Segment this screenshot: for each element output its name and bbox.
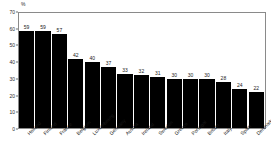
bar bbox=[68, 59, 83, 128]
bar-slot: 22 bbox=[249, 13, 264, 128]
bar bbox=[134, 75, 149, 128]
bar-slot: 28 bbox=[216, 13, 231, 128]
bar-value-label: 30 bbox=[167, 72, 182, 78]
bar-value-label: 59 bbox=[19, 24, 34, 30]
y-axis-tick-label: 20 bbox=[9, 93, 15, 99]
y-axis-tick-label: 30 bbox=[9, 76, 15, 82]
bar-slot: 42 bbox=[68, 13, 83, 128]
bar-slot: 30 bbox=[167, 13, 182, 128]
y-axis-tick-label: 10 bbox=[9, 109, 15, 115]
bar bbox=[35, 31, 50, 128]
bar-slot: 30 bbox=[183, 13, 198, 128]
bar-slot: 33 bbox=[117, 13, 132, 128]
bar-value-label: 31 bbox=[150, 70, 165, 76]
bar-value-label: 33 bbox=[117, 67, 132, 73]
bar bbox=[150, 77, 165, 128]
bar-slot: 30 bbox=[199, 13, 214, 128]
bar-slot: 24 bbox=[232, 13, 247, 128]
y-axis: 010203040506070 bbox=[0, 12, 18, 129]
bar-slot: 59 bbox=[35, 13, 50, 128]
bar-value-label: 37 bbox=[101, 60, 116, 66]
chart-page: % 010203040506070 5959574240373332313030… bbox=[0, 0, 271, 163]
bars-area: 595957424037333231303030282422 bbox=[19, 13, 265, 128]
bar-value-label: 57 bbox=[52, 27, 67, 33]
bar bbox=[216, 82, 231, 128]
bar-value-label: 30 bbox=[199, 72, 214, 78]
bar-slot: 32 bbox=[134, 13, 149, 128]
y-axis-tick-label: 40 bbox=[9, 59, 15, 65]
bar-slot: 31 bbox=[150, 13, 165, 128]
bar-value-label: 40 bbox=[85, 55, 100, 61]
bar-slot: 37 bbox=[101, 13, 116, 128]
bar-value-label: 32 bbox=[134, 68, 149, 74]
bar bbox=[249, 92, 264, 128]
bar-slot: 57 bbox=[52, 13, 67, 128]
bar-value-label: 42 bbox=[68, 52, 83, 58]
bar bbox=[85, 62, 100, 128]
bar bbox=[52, 34, 67, 128]
bar bbox=[232, 89, 247, 128]
bar-value-label: 59 bbox=[35, 24, 50, 30]
bar-slot: 59 bbox=[19, 13, 34, 128]
bar-slot: 40 bbox=[85, 13, 100, 128]
y-axis-tick-label: 50 bbox=[9, 42, 15, 48]
y-axis-tick-label: 70 bbox=[9, 9, 15, 15]
bar-value-label: 24 bbox=[232, 82, 247, 88]
bar-value-label: 22 bbox=[249, 85, 264, 91]
y-axis-tick-label: 60 bbox=[9, 26, 15, 32]
bar-value-label: 28 bbox=[216, 75, 231, 81]
bar bbox=[19, 31, 34, 128]
bar-value-label: 30 bbox=[183, 72, 198, 78]
x-axis-labels: HollandFinlandFranceBelgiumLuxembourgGer… bbox=[19, 130, 265, 163]
y-axis-tick-label: 0 bbox=[12, 126, 15, 132]
y-axis-unit-label: % bbox=[21, 1, 25, 7]
